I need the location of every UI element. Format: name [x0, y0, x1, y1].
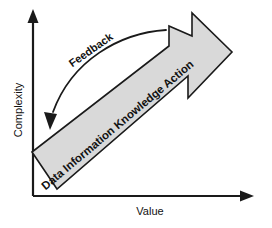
- y-axis-label: Complexity: [12, 82, 24, 137]
- axis-arrow-up-icon: [28, 9, 39, 23]
- main-arrow-stage-labels: Data Information Knowledge Action: [39, 58, 196, 192]
- y-axis: [28, 9, 39, 196]
- y-axis-label-group: Complexity: [12, 82, 24, 137]
- diagram-canvas: Data Information Knowledge Action Feedba…: [0, 0, 272, 228]
- feedback-curve-arrow-icon: [44, 112, 57, 130]
- stage-labels-text: Data Information Knowledge Action: [39, 58, 196, 192]
- x-axis: [33, 191, 254, 202]
- feedback-label: Feedback: [66, 30, 115, 69]
- axis-arrow-right-icon: [240, 191, 254, 202]
- x-axis-label: Value: [136, 205, 163, 217]
- feedback-label-group: Feedback: [66, 30, 115, 69]
- dikw-diagram-svg: Data Information Knowledge Action Feedba…: [0, 0, 272, 228]
